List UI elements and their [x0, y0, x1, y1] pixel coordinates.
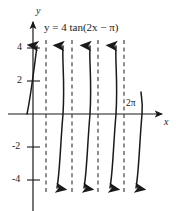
y-tick-label-neg2: -2 [12, 141, 20, 151]
equation-label: y = 4 tan(2x − π) [44, 22, 118, 33]
y-tick-label-2: 2 [17, 75, 22, 85]
tangent-branch [136, 92, 142, 188]
x-axis-label: x [164, 117, 168, 127]
tangent-function-graph: y x y = 4 tan(2x − π) 4 2 -2 -4 2π [0, 0, 176, 211]
y-tick-label-4: 4 [17, 42, 22, 52]
tangent-branch [110, 46, 117, 188]
tangent-branch [27, 46, 37, 114]
x-tick-label-2pi: 2π [126, 99, 136, 109]
y-tick-label-neg4: -4 [12, 174, 20, 184]
tangent-branch [84, 46, 91, 188]
tangent-branches [27, 46, 142, 188]
y-axis-label: y [36, 6, 40, 16]
tangent-branch [57, 46, 64, 188]
